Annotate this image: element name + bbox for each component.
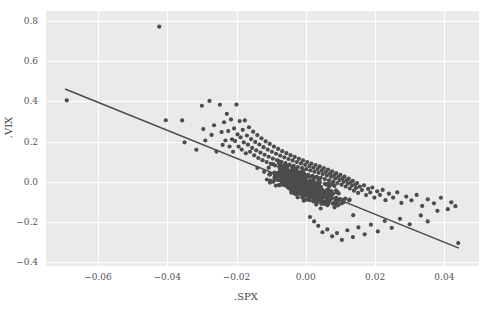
- scatter-point: [244, 151, 248, 155]
- scatter-point: [277, 159, 281, 163]
- scatter-point: [415, 193, 419, 197]
- scatter-point: [277, 173, 281, 177]
- scatter-point: [251, 130, 255, 134]
- scatter-point: [348, 197, 352, 201]
- scatter-point: [340, 238, 344, 242]
- scatter-point: [375, 189, 379, 193]
- scatter-point: [284, 151, 288, 155]
- scatter-point: [271, 162, 275, 166]
- scatter-point: [180, 118, 184, 122]
- scatter-point: [223, 138, 227, 142]
- scatter-point: [334, 171, 338, 175]
- scatter-point: [270, 150, 274, 154]
- scatter-point: [268, 142, 272, 146]
- scatter-point: [200, 104, 204, 108]
- scatter-point: [212, 123, 216, 127]
- scatter-point: [345, 228, 349, 232]
- scatter-point: [360, 188, 364, 192]
- scatter-point: [288, 185, 292, 189]
- scatter-point: [203, 138, 207, 142]
- scatter-point: [351, 213, 355, 217]
- scatter-point: [245, 133, 249, 137]
- scatter-point: [266, 147, 270, 151]
- scatter-point: [278, 167, 282, 171]
- scatter-point: [300, 174, 304, 178]
- scatter-point: [313, 181, 317, 185]
- y-axis-label: .VIX: [3, 117, 14, 138]
- scatter-point: [207, 99, 211, 103]
- scatter-point: [235, 132, 239, 136]
- plot-area: [46, 11, 479, 266]
- scatter-points-layer: [46, 11, 479, 266]
- scatter-point: [231, 150, 235, 154]
- scatter-point: [320, 230, 324, 234]
- scatter-point: [295, 180, 299, 184]
- scatter-point: [226, 129, 230, 133]
- scatter-point: [297, 157, 301, 161]
- x-tick-label: −0.02: [207, 272, 267, 282]
- scatter-point: [395, 190, 399, 194]
- scatter-point: [201, 127, 205, 131]
- scatter-point: [65, 98, 69, 102]
- scatter-point: [390, 226, 394, 230]
- x-tick-label: −0.04: [137, 272, 197, 282]
- scatter-point: [329, 189, 333, 193]
- scatter-point: [420, 204, 424, 208]
- scatter-point: [432, 201, 436, 205]
- y-tick-label: 0.8: [4, 16, 38, 26]
- scatter-point: [268, 172, 272, 176]
- scatter-point: [286, 157, 290, 161]
- scatter-point: [250, 146, 254, 150]
- y-tick-label: 0.0: [4, 177, 38, 187]
- scatter-point: [302, 199, 306, 203]
- scatter-point: [383, 198, 387, 202]
- scatter-point: [313, 163, 317, 167]
- scatter-point: [316, 224, 320, 228]
- scatter-point: [456, 241, 460, 245]
- scatter-point: [351, 179, 355, 183]
- scatter-point: [391, 195, 395, 199]
- scatter-point: [366, 187, 370, 191]
- scatter-point: [312, 187, 316, 191]
- scatter-point: [453, 204, 457, 208]
- scatter-point: [283, 170, 287, 174]
- scatter-point: [288, 153, 292, 157]
- scatter-point: [255, 166, 259, 170]
- scatter-point: [291, 170, 295, 174]
- scatter-point: [209, 133, 213, 137]
- scatter-point: [278, 183, 282, 187]
- scatter-point: [378, 193, 382, 197]
- scatter-point: [308, 168, 312, 172]
- scatter-point: [449, 200, 453, 204]
- scatter-point: [256, 156, 260, 160]
- scatter-point: [435, 209, 439, 213]
- scatter-point: [280, 149, 284, 153]
- scatter-point: [319, 206, 323, 210]
- scatter-point: [363, 232, 367, 236]
- scatter-point: [338, 173, 342, 177]
- scatter-point: [234, 102, 238, 106]
- scatter-point: [383, 219, 387, 223]
- scatter-point: [241, 128, 245, 132]
- scatter-point: [362, 183, 366, 187]
- scatter-point: [387, 192, 391, 196]
- scatter-point: [247, 125, 251, 129]
- scatter-point: [404, 194, 408, 198]
- scatter-point: [304, 189, 308, 193]
- scatter-point: [233, 139, 237, 143]
- x-axis-label: .SPX: [0, 291, 492, 302]
- scatter-point: [301, 158, 305, 162]
- scatter-point: [376, 229, 380, 233]
- scatter-point: [218, 103, 222, 107]
- scatter-point: [253, 140, 257, 144]
- scatter-point: [315, 196, 319, 200]
- scatter-point: [267, 155, 271, 159]
- scatter-point: [222, 120, 226, 124]
- scatter-point: [351, 235, 355, 239]
- scatter-point: [308, 181, 312, 185]
- scatter-point: [299, 185, 303, 189]
- x-tick-label: −0.06: [68, 272, 128, 282]
- scatter-point: [347, 177, 351, 181]
- scatter-point: [309, 162, 313, 166]
- scatter-point: [214, 149, 218, 153]
